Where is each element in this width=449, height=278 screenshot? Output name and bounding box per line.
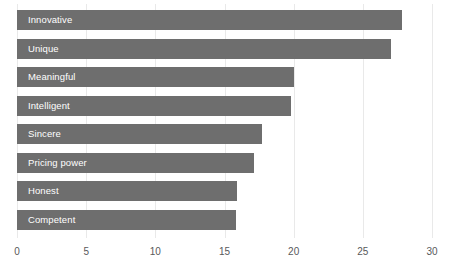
plot-area: InnovativeUniqueMeaningfulIntelligentSin… — [0, 0, 449, 240]
x-axis-tick-label: 5 — [83, 246, 89, 257]
bar-row[interactable]: Honest — [17, 181, 237, 201]
x-axis-tick-label: 10 — [150, 246, 161, 257]
bar[interactable] — [17, 39, 391, 59]
x-axis-tick-label: 30 — [426, 246, 437, 257]
x-axis-tick-label: 25 — [357, 246, 368, 257]
bar-category-label: Honest — [28, 181, 59, 201]
bar[interactable] — [17, 10, 402, 30]
x-axis-tick-label: 20 — [288, 246, 299, 257]
bar-row[interactable]: Pricing power — [17, 153, 254, 173]
bar-chart: InnovativeUniqueMeaningfulIntelligentSin… — [0, 0, 449, 278]
x-axis-tick-label: 0 — [14, 246, 20, 257]
bar-category-label: Intelligent — [28, 96, 70, 116]
bar-row[interactable]: Meaningful — [17, 67, 294, 87]
bar-category-label: Competent — [28, 210, 75, 230]
bar-category-label: Sincere — [28, 124, 61, 144]
bar-row[interactable]: Innovative — [17, 10, 402, 30]
bar-row[interactable]: Unique — [17, 39, 391, 59]
bars-container: InnovativeUniqueMeaningfulIntelligentSin… — [0, 0, 449, 240]
bar-row[interactable]: Intelligent — [17, 96, 291, 116]
bar-category-label: Meaningful — [28, 67, 75, 87]
bar-row[interactable]: Competent — [17, 210, 236, 230]
bar-category-label: Unique — [28, 39, 59, 59]
bar-row[interactable]: Sincere — [17, 124, 262, 144]
x-axis-tick-label: 15 — [219, 246, 230, 257]
x-axis: 051015202530 — [0, 240, 449, 278]
bar-category-label: Pricing power — [28, 153, 87, 173]
bar-category-label: Innovative — [28, 10, 72, 30]
